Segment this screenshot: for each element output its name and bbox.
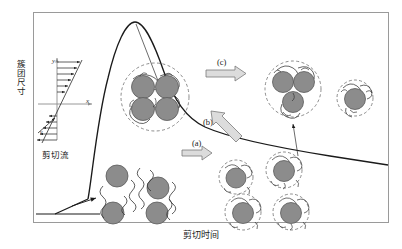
shear-velocity-arrows-lower: [37, 116, 57, 140]
shelled-particle: [225, 194, 261, 230]
tail-pointer-arrow: [293, 124, 298, 156]
figure-canvas: 簇团尺寸 剪切时间 剪切流 (a) (b) (c) y x γ: [0, 0, 402, 249]
free-particles-group: [100, 165, 176, 224]
cluster-single-particle-right: [337, 80, 373, 117]
block-arrow-b: [211, 111, 242, 142]
block-arrow-a: [182, 146, 212, 160]
figure-graphics: [0, 0, 402, 249]
cluster-broken-three-particles: [265, 61, 321, 118]
block-arrow-c: [206, 66, 246, 81]
shelled-particle: [266, 152, 302, 189]
shear-flow-inset: [37, 58, 92, 143]
shelled-particle: [273, 194, 309, 230]
shelled-particle: [219, 160, 253, 194]
shelled-particles-group: [219, 152, 309, 230]
